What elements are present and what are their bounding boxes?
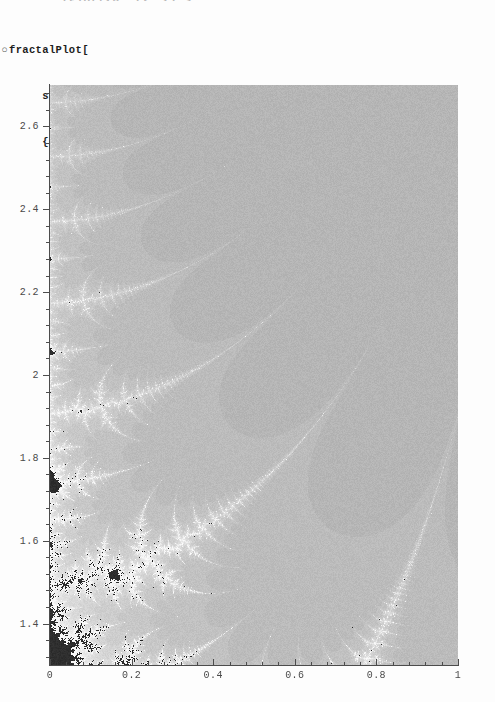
- y-tick-label: 2: [0, 370, 39, 381]
- y-tick-minor: [46, 276, 50, 277]
- x-tick-minor: [409, 662, 410, 666]
- x-tick-label: 0: [47, 670, 53, 681]
- y-tick-minor: [46, 491, 50, 492]
- y-tick-minor: [46, 110, 50, 111]
- x-tick-minor: [230, 662, 231, 666]
- x-tick-minor: [246, 662, 247, 666]
- y-tick-minor: [46, 425, 50, 426]
- x-tick-minor: [344, 662, 345, 666]
- x-tick-minor: [66, 662, 67, 666]
- y-tick-minor: [46, 524, 50, 525]
- y-tick-major: [43, 541, 50, 542]
- x-tick-minor: [360, 662, 361, 666]
- y-tick-minor: [46, 309, 50, 310]
- y-tick-major: [43, 624, 50, 625]
- y-tick-minor: [46, 474, 50, 475]
- x-tick-label: 0.2: [122, 670, 141, 681]
- x-tick-label: 0.8: [367, 670, 386, 681]
- y-tick-label: 1.6: [0, 535, 39, 546]
- y-tick-minor: [46, 176, 50, 177]
- y-tick-minor: [46, 160, 50, 161]
- x-tick-minor: [262, 662, 263, 666]
- x-tick-major: [50, 659, 51, 666]
- y-tick-minor: [46, 259, 50, 260]
- x-tick-label: 0.6: [285, 670, 304, 681]
- y-tick-major: [43, 126, 50, 127]
- y-tick-label: 2.2: [0, 287, 39, 298]
- y-tick-minor: [46, 408, 50, 409]
- x-tick-minor: [278, 662, 279, 666]
- y-tick-minor: [46, 193, 50, 194]
- y-tick-minor: [46, 358, 50, 359]
- y-tick-major: [43, 375, 50, 376]
- x-tick-major: [213, 659, 214, 666]
- y-tick-minor: [46, 325, 50, 326]
- x-tick-minor: [425, 662, 426, 666]
- y-tick-minor: [46, 574, 50, 575]
- x-tick-minor: [311, 662, 312, 666]
- y-tick-minor: [46, 93, 50, 94]
- y-tick-major: [43, 209, 50, 210]
- x-tick-minor: [181, 662, 182, 666]
- y-tick-label: 1.8: [0, 452, 39, 463]
- y-tick-minor: [46, 508, 50, 509]
- fractal-image: [50, 85, 458, 665]
- x-tick-minor: [148, 662, 149, 666]
- y-tick-minor: [46, 392, 50, 393]
- y-tick-minor: [46, 590, 50, 591]
- x-tick-minor: [164, 662, 165, 666]
- y-tick-minor: [46, 242, 50, 243]
- y-tick-minor: [46, 143, 50, 144]
- y-tick-minor: [46, 226, 50, 227]
- x-tick-minor: [83, 662, 84, 666]
- axis-line-x: [49, 665, 459, 666]
- y-tick-minor: [46, 640, 50, 641]
- y-tick-label: 2.6: [0, 121, 39, 132]
- y-tick-minor: [46, 657, 50, 658]
- y-tick-minor: [46, 342, 50, 343]
- fractal-plot-output[interactable]: 1.41.61.822.22.42.600.20.40.60.81: [0, 0, 495, 702]
- x-tick-major: [132, 659, 133, 666]
- x-tick-minor: [197, 662, 198, 666]
- x-tick-minor: [99, 662, 100, 666]
- y-tick-label: 2.4: [0, 204, 39, 215]
- y-tick-minor: [46, 557, 50, 558]
- x-tick-minor: [115, 662, 116, 666]
- x-tick-label: 1: [455, 670, 461, 681]
- x-tick-minor: [327, 662, 328, 666]
- notebook-page: tPlot[{0, 1}, {1.3 ○fractalPlot[ sinFrac…: [0, 0, 495, 702]
- y-tick-minor: [46, 607, 50, 608]
- y-tick-major: [43, 458, 50, 459]
- x-tick-major: [458, 659, 459, 666]
- x-tick-major: [376, 659, 377, 666]
- x-tick-minor: [442, 662, 443, 666]
- x-tick-minor: [393, 662, 394, 666]
- y-tick-major: [43, 292, 50, 293]
- x-tick-label: 0.4: [204, 670, 223, 681]
- x-tick-major: [295, 659, 296, 666]
- y-tick-label: 1.4: [0, 618, 39, 629]
- y-tick-minor: [46, 441, 50, 442]
